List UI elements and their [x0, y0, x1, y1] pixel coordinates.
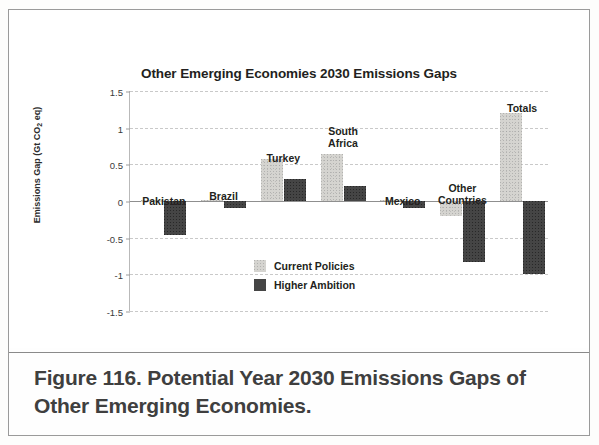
legend-item: Current Policies: [254, 260, 355, 272]
legend-label: Higher Ambition: [274, 279, 355, 291]
y-axis-title-subscript: 2: [36, 123, 43, 127]
y-tick-label: -1: [115, 270, 123, 281]
chart-title: Other Emerging Economies 2030 Emissions …: [9, 66, 589, 81]
category-label: South Africa: [298, 126, 388, 149]
document-page: Other Emerging Economies 2030 Emissions …: [0, 0, 599, 445]
bar-higher-ambition: [284, 179, 306, 201]
figure-caption: Figure 116. Potential Year 2030 Emission…: [34, 364, 579, 420]
legend-swatch-light: [254, 260, 266, 272]
bar-higher-ambition: [463, 201, 485, 262]
caption-divider: [9, 352, 589, 353]
chart-panel: Other Emerging Economies 2030 Emissions …: [9, 10, 589, 348]
y-tick-label: -0.5: [107, 233, 123, 244]
chart-legend: Current PoliciesHigher Ambition: [254, 260, 355, 298]
category-label: Totals: [477, 103, 567, 115]
legend-label: Current Policies: [274, 260, 355, 272]
category-label: Other Countries: [417, 183, 507, 206]
y-tick-label: 0.5: [110, 160, 123, 171]
legend-swatch-dark: [254, 279, 266, 291]
y-axis-title: Emissions Gap (Gt CO2 eq): [32, 65, 42, 265]
y-axis-title-main: Emissions Gap (Gt CO: [32, 127, 42, 224]
gridline-neg1p5: -1.5: [130, 311, 548, 312]
y-axis-title-tail: eq): [32, 107, 42, 123]
category-label: Turkey: [238, 153, 328, 165]
y-tick-label: 1.5: [110, 87, 123, 98]
y-tick-mark: [126, 312, 130, 313]
bar-higher-ambition: [523, 201, 545, 274]
y-tick-label: -1.5: [107, 307, 123, 318]
y-tick-label: 1: [118, 123, 123, 134]
category-label: Brazil: [179, 191, 269, 203]
legend-item: Higher Ambition: [254, 279, 355, 291]
